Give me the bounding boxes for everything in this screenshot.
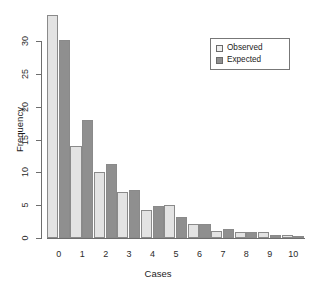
x-tick-label: 3	[117, 249, 140, 259]
bar-observed-6	[188, 224, 199, 238]
bar-observed-10	[282, 235, 293, 238]
x-tick-label: 9	[258, 249, 281, 259]
bar-expected-9	[270, 235, 281, 238]
y-tick-label: 25	[20, 69, 30, 79]
legend-label-expected: Expected	[227, 55, 261, 65]
bar-observed-4	[141, 210, 152, 238]
y-tick-label: 5	[20, 203, 30, 208]
x-tick-label: 6	[188, 249, 211, 259]
bar-expected-0	[59, 40, 70, 238]
bar-observed-5	[164, 205, 175, 238]
bar-chart-figure: 051015202530 012345678910 Frequency Case…	[0, 0, 316, 292]
legend-item-observed: Observed	[216, 43, 283, 53]
x-axis-title: Cases	[0, 268, 316, 279]
y-tick	[36, 172, 42, 173]
bar-expected-2	[106, 164, 117, 238]
x-tick-label: 10	[282, 249, 305, 259]
bar-observed-0	[47, 15, 58, 238]
bar-expected-3	[129, 190, 140, 238]
legend-swatch-observed-icon	[216, 45, 223, 52]
bar-observed-1	[70, 146, 81, 238]
x-tick-label: 4	[141, 249, 164, 259]
bar-expected-8	[246, 232, 257, 238]
x-tick-label: 7	[211, 249, 234, 259]
y-tick-label: 0	[20, 235, 30, 240]
y-tick	[36, 140, 42, 141]
legend-item-expected: Expected	[216, 55, 283, 65]
bar-expected-7	[223, 229, 234, 238]
y-tick	[36, 107, 42, 108]
bar-expected-6	[199, 224, 210, 238]
y-tick	[36, 74, 42, 75]
y-tick-label: 10	[20, 167, 30, 177]
bar-observed-3	[117, 192, 128, 238]
x-tick-label: 0	[47, 249, 70, 259]
x-tick-label: 5	[164, 249, 187, 259]
bar-observed-9	[258, 232, 269, 238]
bar-observed-8	[235, 232, 246, 238]
y-tick	[36, 41, 42, 42]
bar-expected-5	[176, 217, 187, 238]
bar-observed-7	[211, 231, 222, 238]
x-tick-label: 8	[235, 249, 258, 259]
bar-expected-1	[82, 120, 93, 238]
x-tick-label: 2	[94, 249, 117, 259]
y-axis-title: Frequency	[14, 107, 25, 152]
bar-observed-2	[94, 172, 105, 238]
x-axis-line	[47, 238, 305, 239]
y-tick	[36, 205, 42, 206]
bar-expected-10	[293, 236, 304, 238]
y-tick	[36, 238, 42, 239]
legend-swatch-expected-icon	[216, 57, 223, 64]
x-tick-label: 1	[70, 249, 93, 259]
bar-expected-4	[153, 206, 164, 238]
legend-label-observed: Observed	[227, 43, 263, 53]
chart-legend: Observed Expected	[210, 38, 290, 70]
y-tick-label: 30	[20, 36, 30, 46]
